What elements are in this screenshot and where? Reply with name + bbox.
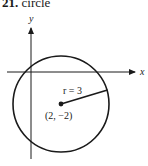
center-point (59, 102, 64, 107)
radius-label: r = 3 (63, 85, 82, 96)
x-axis-label: x (139, 66, 145, 77)
circle-diagram: x y r = 3 (2, −2) (0, 0, 148, 166)
y-axis-label: y (28, 13, 34, 24)
center-label: (2, −2) (45, 110, 72, 122)
